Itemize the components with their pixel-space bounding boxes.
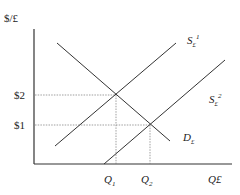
supply-2-label: S£2 <box>209 93 222 108</box>
price-label-2: $2 <box>14 90 25 101</box>
y-axis-label: $/£ <box>4 13 18 24</box>
q1-label: Q1 <box>104 174 115 188</box>
demand-label: D£ <box>183 132 194 146</box>
x-axis-label: Q£ <box>208 174 221 185</box>
diagram-canvas <box>0 0 240 195</box>
price-label-1: $1 <box>14 120 25 131</box>
supply-1-label: S£1 <box>187 34 200 49</box>
supply-curve-2 <box>104 60 225 164</box>
demand-curve <box>57 43 170 141</box>
q2-label: Q2 <box>141 174 152 188</box>
